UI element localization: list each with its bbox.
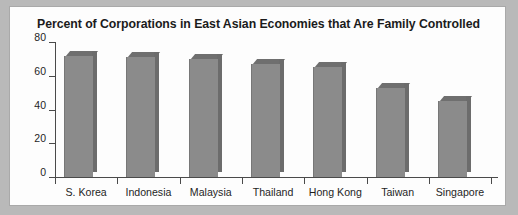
bar-front-face [189,59,218,177]
y-axis-tick [49,143,56,144]
x-axis-label: Hong Kong [304,186,366,198]
bar [313,36,341,177]
x-axis-separator [491,178,492,184]
bar [64,36,92,177]
bar [438,36,466,177]
y-axis-tick-label: 0 [6,172,46,173]
x-axis-separator [304,178,305,184]
bar [376,36,404,177]
y-axis-tick-label: 20 [6,138,46,139]
y-axis-tick-label: 60 [6,71,46,72]
bar-front-face [251,64,280,177]
x-axis-separator [117,178,118,184]
x-axis-separator [242,178,243,184]
y-axis-tick-label: 40 [6,105,46,106]
chart-panel: Percent of Corporations in East Asian Ec… [9,6,506,206]
x-axis-separator [180,178,181,184]
x-axis-label: S. Korea [55,186,117,198]
bar [126,36,154,177]
x-axis-label: Indonesia [117,186,179,198]
bar-front-face [126,57,155,177]
x-axis-label: Taiwan [367,186,429,198]
plot-area: 020406080 S. KoreaIndonesiaMalaysiaThail… [46,36,498,191]
bar-front-face [438,101,467,177]
figure-root: Percent of Corporations in East Asian Ec… [0,0,518,215]
x-axis-label: Singapore [429,186,491,198]
x-axis-line [55,177,498,178]
bar [189,36,217,177]
y-axis-tick [49,42,56,43]
bar-front-face [64,56,93,178]
y-axis-tick [49,76,56,77]
bar-front-face [376,88,405,177]
x-axis-label: Malaysia [180,186,242,198]
x-axis-separator [367,178,368,184]
y-axis-tick [49,110,56,111]
x-axis-separator [429,178,430,184]
y-axis-tick-label: 80 [6,37,46,38]
bar [251,36,279,177]
chart-title: Percent of Corporations in East Asian Ec… [10,17,507,31]
bar-front-face [313,67,342,177]
x-axis-label: Thailand [242,186,304,198]
x-axis-separator [55,178,56,184]
